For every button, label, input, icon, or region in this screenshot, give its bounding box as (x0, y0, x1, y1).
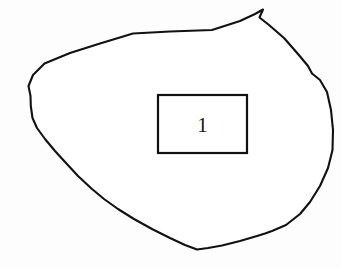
figure-container: 1 (0, 0, 341, 268)
figure-drawing: 1 (0, 0, 341, 268)
callout-box-label: 1 (197, 113, 208, 137)
